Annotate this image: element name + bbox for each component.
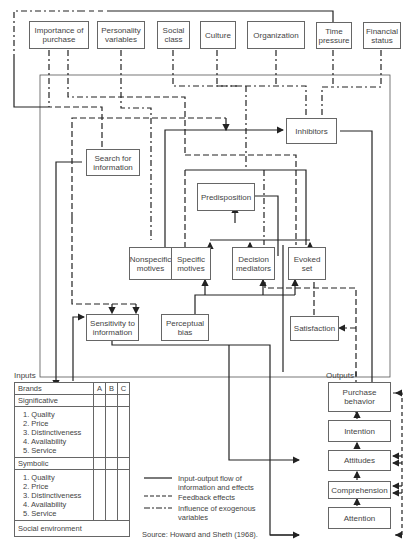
cell [117,470,129,520]
legend-dashed-label: Feedback effects [178,493,235,502]
decision-mediators-box: Decision mediators [232,247,275,280]
inputs-label: Inputs [14,371,36,380]
cell [105,470,117,520]
inputs-table: Brands A B C Significative 1. Quality 2.… [14,382,130,537]
attitudes-box: Attitudes [328,450,391,471]
cell [105,407,117,457]
column-a-header: A [93,383,105,394]
cell [105,395,117,406]
legend-dashdot-label: Influence of exogenous variables [178,504,256,522]
significative-label: Significative [15,395,93,406]
cell [93,407,105,457]
organization-box: Organization [247,21,305,49]
source-caption: Source: Howard and Sheth (1968). [142,530,258,539]
significative-items: 1. Quality 2. Price 3. Distinctiveness 4… [15,407,93,457]
time-pressure-box: Time pressure [316,22,352,49]
social-environment-label: Social environment [15,521,129,536]
symbolic-items: 1. Quality 2. Price 3. Distinctiveness 4… [15,470,93,520]
table-row: Brands A B C [15,383,129,395]
personality-variables-box: Personality variables [97,21,145,49]
cell [117,395,129,406]
symbolic-label: Symbolic [15,458,93,469]
cell [117,458,129,469]
comprehension-box: Comprehension [328,481,391,499]
column-b-header: B [105,383,117,394]
perceptual-bias-box: Perceptual bias [161,314,209,341]
brands-header: Brands [15,383,93,394]
cell [105,458,117,469]
cell [117,407,129,457]
table-row: 1. Quality 2. Price 3. Distinctiveness 4… [15,407,129,458]
intention-box: Intention [328,420,391,442]
cell [93,470,105,520]
predisposition-box: Predisposition [197,183,255,211]
legend-solid-label: Input-output flow of information and eff… [178,474,254,492]
culture-box: Culture [200,21,236,49]
attention-box: Attention [328,507,391,529]
table-row: Significative [15,395,129,407]
specific-motives-box: Specific motives [171,247,211,280]
cell [93,458,105,469]
purchase-behavior-box: Purchase behavior [328,382,391,412]
social-class-box: Social class [157,21,190,49]
table-row: Social environment [15,521,129,536]
satisfaction-box: Satisfaction [290,316,339,341]
table-row: Symbolic [15,458,129,470]
column-c-header: C [117,383,129,394]
importance-of-purchase-box: Importance of purchase [29,21,89,49]
outputs-label: Outputs [326,371,354,380]
inhibitors-box: Inhibitors [286,118,337,144]
cell [93,395,105,406]
sensitivity-to-information-box: Sensitivity to information [86,314,139,341]
nonspecific-motives-box: Nonspecific motives [129,247,172,280]
table-row: 1. Quality 2. Price 3. Distinctiveness 4… [15,470,129,521]
search-for-information-box: Search for information [86,149,140,176]
financial-status-box: Financial status [363,22,401,49]
evoked-set-box: Evoked set [288,247,326,280]
